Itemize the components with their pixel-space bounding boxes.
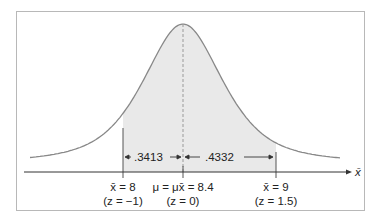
area-label-right: .4332 [204,151,235,163]
marker-z-8: (z = −1) [98,195,148,208]
x-axis-label: x̄ [355,166,361,179]
marker-label-mean: μ = μx̄ = 8.4 [143,181,223,194]
marker-label-9: x̄ = 9 [256,181,296,194]
marker-label-8: x̄ = 8 [103,181,143,194]
x-axis-arrow-icon [346,170,352,175]
marker-z-mean: (z = 0) [158,195,208,208]
marker-z-9: (z = 1.5) [248,195,304,208]
area-label-left: .3413 [133,151,164,163]
